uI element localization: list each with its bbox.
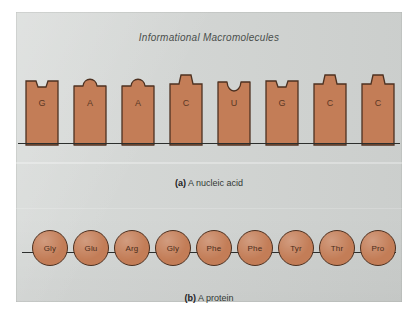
figure-title: Informational Macromolecules [16, 32, 402, 43]
residue-arg-1: Arg [114, 230, 150, 266]
residue-label: Gly [44, 244, 57, 253]
nucleotide-shape-round-notch [217, 72, 251, 146]
nucleotide-row: G A A [25, 56, 393, 146]
caption-panel-b: (b) A protein [16, 293, 402, 303]
residue-phe-2: Phe [237, 230, 273, 266]
caption-label-a: (a) [175, 178, 186, 188]
nucleotide-shape-round-bump [121, 72, 155, 146]
residue-label: Pro [371, 244, 384, 253]
residue-label: Glu [84, 244, 97, 253]
caption-panel-a: (a) A nucleic acid [16, 178, 402, 188]
residue-gly-2: Gly [155, 230, 191, 266]
residue-label: Thr [331, 244, 344, 253]
residue-pro-1: Pro [360, 230, 396, 266]
nucleotide-c-3: C [361, 72, 395, 146]
residue-label: Phe [248, 244, 263, 253]
nucleotide-shape-square-notch [25, 72, 59, 146]
residue-label: Tyr [290, 244, 302, 253]
nucleotide-shape-t-tab [313, 72, 347, 146]
nucleotide-g-2: G [265, 72, 299, 146]
nucleotide-shape-t-tab [169, 72, 203, 146]
residue-label: Gly [167, 244, 180, 253]
residue-thr-1: Thr [319, 230, 355, 266]
residue-phe-1: Phe [196, 230, 232, 266]
nucleotide-shape-t-tab [361, 72, 395, 146]
nucleotide-a-1: A [73, 72, 107, 146]
scan-artifact [16, 162, 402, 164]
residue-tyr-1: Tyr [278, 230, 314, 266]
residue-label: Arg [125, 244, 138, 253]
residue-label: Phe [207, 244, 222, 253]
nucleotide-g-1: G [25, 72, 59, 146]
nucleotide-c-1: C [169, 72, 203, 146]
nucleotide-u-1: U [217, 72, 251, 146]
nucleic-acid-panel: G A A [16, 56, 402, 156]
scan-artifact [16, 208, 402, 209]
residue-gly-1: Gly [32, 230, 68, 266]
caption-text-b: A protein [198, 293, 234, 303]
figure-root: Informational Macromolecules G A [0, 0, 418, 318]
caption-text-a: A nucleic acid [188, 178, 243, 188]
nucleotide-shape-square-notch [265, 72, 299, 146]
nucleotide-c-2: C [313, 72, 347, 146]
nucleic-acid-backbone-line [18, 143, 400, 144]
residue-glu-1: Glu [73, 230, 109, 266]
nucleotide-a-2: A [121, 72, 155, 146]
nucleotide-shape-round-bump [73, 72, 107, 146]
figure-page-panel: Informational Macromolecules G A [16, 12, 402, 302]
caption-label-b: (b) [184, 293, 196, 303]
protein-panel: Gly Glu Arg Gly Phe Phe Tyr Thr [16, 230, 402, 276]
